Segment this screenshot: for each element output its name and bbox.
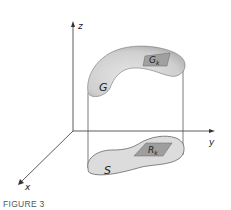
surface-g-label: G [99, 81, 108, 94]
z-axis-arrow-icon [71, 21, 75, 27]
y-axis-arrow-icon [209, 129, 215, 133]
rk-subscript: k [154, 149, 158, 156]
gk-base: G [149, 55, 156, 65]
z-axis-label: z [77, 21, 83, 31]
shadow-region-s-label: S [104, 164, 111, 177]
y-axis-label: y [208, 137, 215, 147]
gk-subscript: k [156, 59, 160, 66]
x-axis-label: x [24, 182, 31, 192]
figure-3-diagram: z y x G Gk S Rk FIGURE 3 [0, 0, 231, 210]
x-axis [21, 131, 73, 182]
figure-caption: FIGURE 3 [3, 199, 45, 209]
